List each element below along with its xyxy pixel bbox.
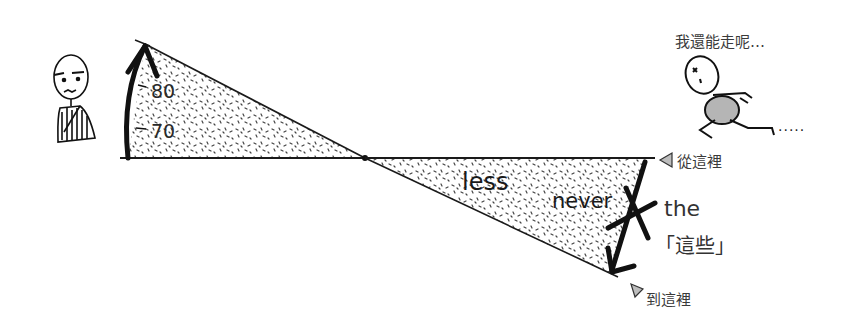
scale-label-80: 80	[151, 80, 175, 102]
start-marker-icon	[660, 153, 672, 167]
tick-70	[136, 128, 146, 129]
end-marker-icon	[631, 284, 643, 297]
word-less: less	[462, 168, 508, 196]
label-these-cjk: 「這些」	[655, 230, 735, 259]
label-the: the	[664, 196, 700, 221]
running-figure-icon	[680, 52, 774, 138]
end-marker-label: 到這裡	[646, 288, 691, 309]
start-marker-label: 從這裡	[677, 150, 722, 171]
old-man-figure-icon	[54, 55, 95, 142]
runner-trail-dots: ·····	[778, 122, 805, 138]
scale-label-70: 70	[151, 120, 175, 142]
word-never: never	[552, 189, 612, 213]
runner-speech: 我還能走呢…	[675, 30, 765, 51]
